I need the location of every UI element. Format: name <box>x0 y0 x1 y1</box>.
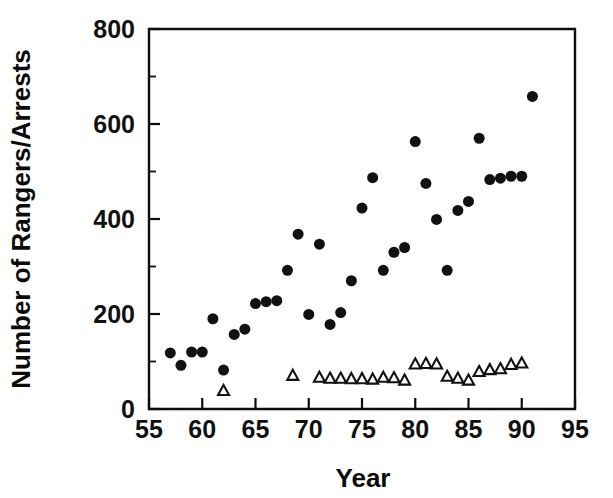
data-point-triangle <box>506 359 517 369</box>
data-point-triangle <box>431 358 442 368</box>
plot-canvas: 556065707580859095 0200400600800 Year Nu… <box>0 0 613 498</box>
x-tick-label: 65 <box>242 415 270 443</box>
data-point-triangle <box>314 372 325 382</box>
data-point-triangle <box>420 358 431 368</box>
data-point-triangle <box>388 372 399 382</box>
x-tick-label: 90 <box>508 415 536 443</box>
data-point-triangle <box>346 373 357 383</box>
data-point-triangle <box>325 373 336 383</box>
x-tick-label: 75 <box>348 415 376 443</box>
data-point-circle <box>495 173 506 184</box>
data-point-circle <box>516 171 527 182</box>
data-point-circle <box>484 174 495 185</box>
x-tick-label: 60 <box>188 415 216 443</box>
data-point-circle <box>207 313 218 324</box>
data-point-triangle <box>287 370 298 380</box>
data-point-circle <box>325 319 336 330</box>
data-point-circle <box>293 229 304 240</box>
data-point-triangle <box>378 372 389 382</box>
data-point-circle <box>378 265 389 276</box>
scatter-plot-figure: 556065707580859095 0200400600800 Year Nu… <box>0 0 613 498</box>
x-axis-tick-labels: 556065707580859095 <box>135 415 589 443</box>
y-axis-major-ticks <box>149 29 160 409</box>
data-point-circle <box>303 309 314 320</box>
y-tick-label: 200 <box>93 300 135 328</box>
data-point-circle <box>474 133 485 144</box>
data-point-triangle <box>335 373 346 383</box>
x-tick-label: 85 <box>455 415 483 443</box>
data-point-circle <box>388 247 399 258</box>
data-point-triangle <box>452 373 463 383</box>
axis-frame <box>149 29 575 409</box>
data-point-triangle <box>516 357 527 367</box>
x-tick-label: 80 <box>401 415 429 443</box>
data-point-circle <box>175 360 186 371</box>
data-point-circle <box>346 275 357 286</box>
data-point-triangle <box>484 364 495 374</box>
data-point-circle <box>218 365 229 376</box>
x-axis-major-ticks <box>149 398 575 409</box>
data-point-circle <box>229 329 240 340</box>
data-point-circle <box>442 265 453 276</box>
series-arrests-points <box>165 91 538 376</box>
data-point-triangle <box>463 374 474 384</box>
data-point-circle <box>261 296 272 307</box>
y-tick-label: 400 <box>93 205 135 233</box>
y-axis-title: Number of Rangers/Arrests <box>6 49 36 389</box>
data-point-circle <box>367 172 378 183</box>
y-tick-label: 600 <box>93 110 135 138</box>
data-point-triangle <box>495 363 506 373</box>
data-point-circle <box>197 347 208 358</box>
data-point-circle <box>314 239 325 250</box>
data-point-circle <box>420 178 431 189</box>
series-rangers-points <box>218 357 527 395</box>
data-point-circle <box>452 205 463 216</box>
data-point-circle <box>399 242 410 253</box>
data-point-triangle <box>218 385 229 395</box>
data-point-triangle <box>410 358 421 368</box>
y-axis-tick-labels: 0200400600800 <box>93 15 135 423</box>
data-point-triangle <box>399 374 410 384</box>
data-point-circle <box>410 136 421 147</box>
data-point-circle <box>282 265 293 276</box>
data-point-triangle <box>442 371 453 381</box>
x-tick-label: 70 <box>295 415 323 443</box>
data-point-circle <box>335 307 346 318</box>
data-point-circle <box>165 347 176 358</box>
data-point-circle <box>527 91 538 102</box>
plot-frame-box <box>149 29 575 409</box>
x-tick-label: 95 <box>561 415 589 443</box>
data-point-triangle <box>357 373 368 383</box>
x-axis-title: Year <box>336 463 391 493</box>
data-point-circle <box>463 196 474 207</box>
data-point-circle <box>250 298 261 309</box>
y-tick-label: 0 <box>121 395 135 423</box>
data-point-circle <box>506 171 517 182</box>
data-point-circle <box>186 347 197 358</box>
data-point-circle <box>239 324 250 335</box>
y-tick-label: 800 <box>93 15 135 43</box>
data-point-circle <box>357 203 368 214</box>
x-tick-label: 55 <box>135 415 163 443</box>
data-point-circle <box>271 295 282 306</box>
data-point-circle <box>431 214 442 225</box>
